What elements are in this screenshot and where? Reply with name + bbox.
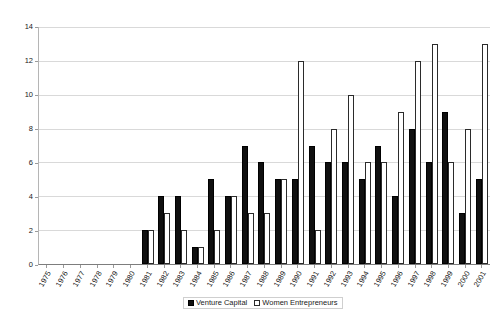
bar: [164, 213, 170, 264]
x-axis-tick-mark: [197, 265, 198, 268]
bar-group: [373, 27, 390, 264]
x-axis-tick-mark: [230, 265, 231, 268]
x-axis-cell: 2000: [456, 266, 473, 306]
bar-group: [239, 27, 256, 264]
bar: [231, 196, 237, 264]
bar: [432, 44, 438, 264]
x-axis-tick-label: 1980: [122, 270, 137, 288]
bar: [415, 61, 421, 264]
y-axis-tick-mark: [35, 27, 38, 28]
plot-area: [38, 27, 490, 265]
bar: [381, 162, 387, 264]
x-axis-tick-label: 1985: [205, 270, 220, 288]
x-axis-tick-label: 1990: [289, 270, 304, 288]
x-axis-tick-mark: [348, 265, 349, 268]
bar: [281, 179, 287, 264]
x-axis-tick-label: 1994: [356, 270, 371, 288]
bar-group: [306, 27, 323, 264]
x-axis-cell: 1998: [423, 266, 440, 306]
x-axis-cell: 1978: [88, 266, 105, 306]
bar: [214, 230, 220, 264]
x-axis-tick-mark: [264, 265, 265, 268]
bar-group: [273, 27, 290, 264]
x-axis-cell: 1975: [38, 266, 55, 306]
bar: [148, 230, 154, 264]
bar: [181, 230, 187, 264]
y-axis-tick-label: 2: [29, 227, 33, 235]
x-axis-cell: 1999: [440, 266, 457, 306]
bar: [465, 129, 471, 264]
x-axis-tick-mark: [63, 265, 64, 268]
bar-group: [340, 27, 357, 264]
x-axis-tick-mark: [164, 265, 165, 268]
bar: [248, 213, 254, 264]
bar: [264, 213, 270, 264]
bar: [331, 129, 337, 264]
legend-item-venture-capital: Venture Capital: [188, 299, 247, 307]
x-axis-cell: 1982: [155, 266, 172, 306]
x-axis-cell: 1994: [356, 266, 373, 306]
legend-swatch-icon: [254, 300, 260, 306]
y-axis-tick-label: 0: [29, 261, 33, 269]
x-axis-tick-label: 2001: [473, 270, 488, 288]
bar-group: [406, 27, 423, 264]
bar: [398, 112, 404, 264]
x-axis-tick-mark: [314, 265, 315, 268]
x-axis-tick-label: 1977: [71, 270, 86, 288]
x-axis-tick-label: 1984: [189, 270, 204, 288]
y-axis-tick-label: 12: [25, 57, 33, 65]
x-axis-cell: 1979: [105, 266, 122, 306]
x-axis-tick-mark: [80, 265, 81, 268]
bar: [365, 162, 371, 264]
x-axis-cell: 1995: [373, 266, 390, 306]
x-axis-cell: 1980: [122, 266, 139, 306]
legend-label: Venture Capital: [196, 299, 247, 307]
bar: [315, 230, 321, 264]
bar-group: [323, 27, 340, 264]
x-axis-cell: 2001: [473, 266, 490, 306]
x-axis-tick-mark: [381, 265, 382, 268]
x-axis-tick-mark: [147, 265, 148, 268]
x-axis-tick-mark: [364, 265, 365, 268]
bar-group: [423, 27, 440, 264]
x-axis-tick-label: 1979: [105, 270, 120, 288]
x-axis-tick-mark: [247, 265, 248, 268]
bar-group: [139, 27, 156, 264]
bar-group: [356, 27, 373, 264]
x-axis-tick-label: 1988: [256, 270, 271, 288]
bar-group: [473, 27, 490, 264]
x-axis-tick-label: 1995: [373, 270, 388, 288]
x-axis-tick-label: 2000: [456, 270, 471, 288]
x-axis-tick-mark: [180, 265, 181, 268]
y-axis-tick-mark: [35, 163, 38, 164]
x-axis-tick-label: 1993: [339, 270, 354, 288]
y-axis-tick-mark: [35, 61, 38, 62]
x-axis-tick-mark: [465, 265, 466, 268]
legend-item-women-entrepreneurs: Women Entrepreneurs: [254, 299, 337, 307]
x-axis-tick-label: 1989: [272, 270, 287, 288]
bar: [448, 162, 454, 264]
x-axis-tick-label: 1996: [389, 270, 404, 288]
bar-group: [56, 27, 73, 264]
x-axis-tick-mark: [97, 265, 98, 268]
x-axis-tick-label: 1998: [423, 270, 438, 288]
y-axis-tick-label: 6: [29, 159, 33, 167]
bar-group: [173, 27, 190, 264]
bar-group: [72, 27, 89, 264]
y-axis-tick-label: 4: [29, 193, 33, 201]
x-axis-tick-label: 1987: [239, 270, 254, 288]
x-axis-cell: 1997: [406, 266, 423, 306]
x-axis-tick-mark: [46, 265, 47, 268]
chart-legend: Venture Capital Women Entrepreneurs: [183, 297, 343, 309]
x-axis-cell: 1996: [389, 266, 406, 306]
x-axis-cell: 1981: [138, 266, 155, 306]
x-axis-tick-mark: [214, 265, 215, 268]
plot-wrapper: 02468101214: [38, 27, 490, 265]
y-axis-tick-label: 10: [25, 91, 33, 99]
bar: [298, 61, 304, 264]
bar-group: [189, 27, 206, 264]
bar-group: [123, 27, 140, 264]
x-axis-tick-label: 1975: [38, 270, 53, 288]
y-axis-tick-mark: [35, 197, 38, 198]
x-axis-tick-label: 1999: [440, 270, 455, 288]
